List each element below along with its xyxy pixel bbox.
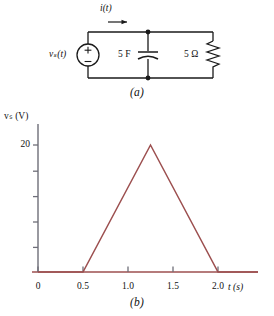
capacitor-icon — [138, 52, 158, 59]
source-label: vₛ(t) — [49, 50, 66, 60]
x-tick-label-2_0: 2.0 — [208, 282, 228, 292]
capacitor-label: 5 F — [118, 50, 130, 60]
x-tick-label-0: 0 — [28, 282, 48, 292]
figure-root: i(t) vₛ(t) 5 F 5 Ω (a) — [0, 0, 274, 316]
node-dot-icon-top — [146, 30, 151, 35]
x-axis-title: t (s) — [228, 283, 243, 293]
panel-b-sublabel: (b) — [0, 296, 274, 308]
x-tick-label-1_0: 1.0 — [118, 282, 138, 292]
current-label: i(t) — [100, 4, 112, 14]
y-axis-title: vₛ (V) — [4, 112, 28, 122]
resistor-label: 5 Ω — [184, 50, 198, 60]
waveform-plot-panel: vₛ (V) t (s) 20 0 0.5 1.0 1.5 2.0 — [0, 108, 274, 316]
node-dot-icon-bottom — [146, 76, 151, 81]
y-axis-ticks — [33, 145, 38, 247]
panel-a-sublabel: (a) — [0, 86, 274, 98]
arrow-right-icon — [108, 20, 127, 25]
waveform-series-vs — [38, 145, 258, 272]
x-tick-label-0_5: 0.5 — [73, 282, 93, 292]
y-tick-label-20: 20 — [8, 140, 30, 150]
resistor-zigzag-icon — [207, 41, 219, 69]
x-axis-ticks — [38, 267, 218, 273]
x-tick-label-1_5: 1.5 — [163, 282, 183, 292]
